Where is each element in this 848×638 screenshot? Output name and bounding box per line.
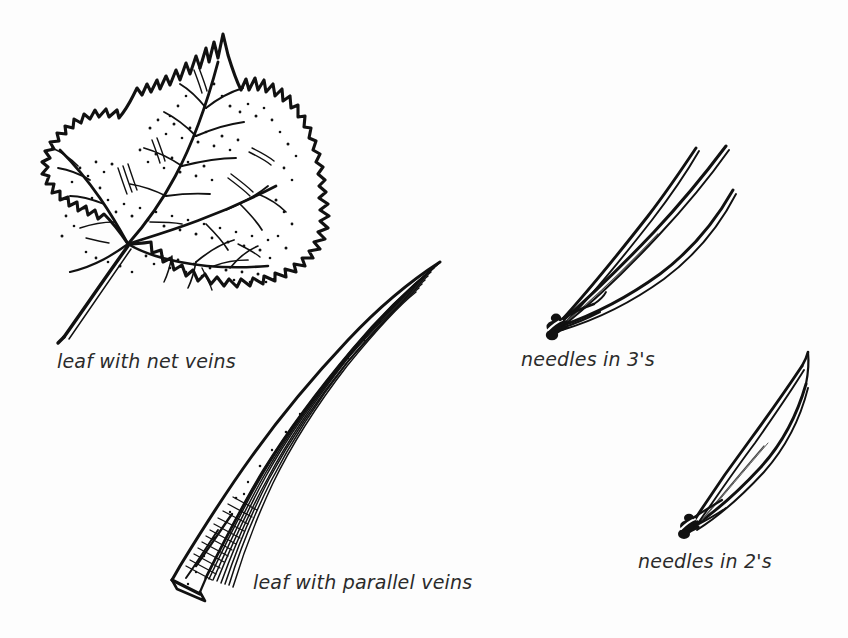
label-needles-in-threes: needles in 3's	[521, 350, 655, 369]
botanical-figure: leaf with net veins leaf with parallel v…	[0, 0, 848, 638]
needles-in-twos-drawing	[678, 352, 808, 539]
figure-illustrations	[0, 0, 848, 638]
label-needles-in-twos: needles in 2's	[638, 552, 772, 571]
label-leaf-with-parallel-veins: leaf with parallel veins	[253, 573, 472, 592]
net-veined-leaf-drawing	[42, 34, 329, 343]
parallel-veined-leaf-drawing	[172, 262, 440, 601]
needles-in-threes-drawing	[546, 146, 736, 340]
label-leaf-with-net-veins: leaf with net veins	[57, 352, 236, 371]
